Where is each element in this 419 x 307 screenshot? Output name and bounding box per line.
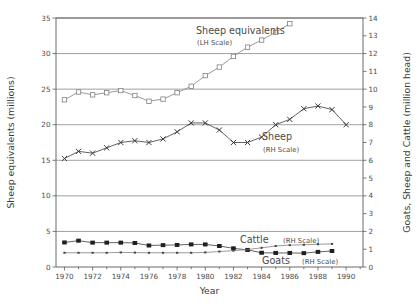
marker-cattle-0 <box>63 252 65 254</box>
marker-cattle-6 <box>148 252 150 254</box>
y-right-tick-label-14: 14 <box>369 14 379 23</box>
x-tick-label-1972: 1972 <box>83 272 101 281</box>
line-chart: 0510152025303501234567891011121314197019… <box>0 0 419 307</box>
y-left-tick-label-15: 15 <box>41 156 50 165</box>
marker-sheep-equivalents-16 <box>288 21 292 25</box>
marker-sheep-equivalents-8 <box>175 91 179 95</box>
y-left-tick-label-0: 0 <box>46 263 51 272</box>
marker-goats-10 <box>203 242 208 246</box>
marker-goats-4 <box>118 241 123 245</box>
marker-goats-19 <box>330 249 335 253</box>
marker-goats-3 <box>104 241 109 245</box>
x-tick-label-1984: 1984 <box>252 272 271 281</box>
marker-goats-8 <box>175 243 180 247</box>
y-right-tick-label-1: 1 <box>369 245 374 254</box>
y-left-tick-label-5: 5 <box>46 227 51 236</box>
y-axis-right-title: Goats, Sheep and Cattle (million head) <box>401 52 412 233</box>
x-tick-label-1970: 1970 <box>55 272 74 281</box>
y-right-tick-label-10: 10 <box>369 85 379 94</box>
marker-sheep-3 <box>104 145 109 150</box>
marker-cattle-15 <box>275 245 277 247</box>
marker-sheep-11 <box>217 127 222 132</box>
marker-cattle-19 <box>331 243 333 245</box>
goats-label: Goats <box>262 255 290 266</box>
y-right-tick-label-3: 3 <box>369 209 374 218</box>
marker-sheep-equivalents-7 <box>161 97 165 101</box>
cattle-sublabel: (RH Scale) <box>283 237 319 245</box>
cattle-label: Cattle <box>240 234 269 245</box>
marker-sheep-19 <box>329 107 334 112</box>
y-right-tick-label-9: 9 <box>369 103 374 112</box>
y-right-tick-label-7: 7 <box>369 138 374 147</box>
y-right-tick-label-0: 0 <box>369 263 374 272</box>
marker-cattle-12 <box>232 250 234 252</box>
marker-cattle-7 <box>162 252 164 254</box>
y-left-tick-label-35: 35 <box>41 14 50 23</box>
marker-goats-7 <box>161 243 166 247</box>
marker-sheep-8 <box>175 129 180 134</box>
marker-cattle-8 <box>176 252 178 254</box>
y-right-tick-label-2: 2 <box>369 227 374 236</box>
x-tick-label-1988: 1988 <box>309 272 328 281</box>
marker-goats-11 <box>217 244 222 248</box>
y-right-tick-label-6: 6 <box>369 156 374 165</box>
sheep-label: Sheep <box>262 131 292 142</box>
y-right-tick-label-13: 13 <box>369 31 378 40</box>
marker-sheep-equivalents-4 <box>119 88 123 92</box>
marker-cattle-2 <box>92 252 94 254</box>
sheep-sublabel: (RH Scale) <box>263 146 299 154</box>
sheep-equivalents-sublabel: (LH Scale) <box>197 39 232 47</box>
marker-cattle-9 <box>190 252 192 254</box>
series-line-sheep <box>64 106 346 158</box>
marker-sheep-equivalents-1 <box>76 90 80 94</box>
marker-cattle-1 <box>77 252 79 254</box>
y-left-tick-label-10: 10 <box>41 191 51 200</box>
marker-sheep-equivalents-12 <box>231 54 235 58</box>
marker-goats-17 <box>302 251 307 255</box>
x-tick-label-1978: 1978 <box>168 272 187 281</box>
y-right-tick-label-12: 12 <box>369 49 378 58</box>
marker-goats-6 <box>147 243 152 247</box>
x-tick-label-1986: 1986 <box>281 272 300 281</box>
marker-cattle-5 <box>134 252 136 254</box>
x-axis-title: Year <box>199 285 220 296</box>
marker-sheep-equivalents-5 <box>133 93 137 97</box>
x-tick-label-1990: 1990 <box>337 272 356 281</box>
x-tick-label-1976: 1976 <box>140 272 159 281</box>
marker-sheep-equivalents-10 <box>203 73 207 77</box>
y-right-tick-label-8: 8 <box>369 120 374 129</box>
marker-sheep-equivalents-6 <box>147 99 151 103</box>
marker-sheep-equivalents-11 <box>217 65 221 69</box>
sheep-equivalents-label: Sheep equivalents <box>196 25 285 36</box>
marker-goats-0 <box>62 240 67 244</box>
marker-sheep-equivalents-13 <box>245 45 249 49</box>
marker-goats-9 <box>189 242 194 246</box>
marker-sheep-equivalents-3 <box>104 91 108 95</box>
marker-goats-1 <box>76 239 81 243</box>
marker-sheep-16 <box>287 117 292 122</box>
marker-sheep-equivalents-14 <box>259 38 263 42</box>
marker-cattle-11 <box>218 251 220 253</box>
marker-goats-5 <box>133 241 138 245</box>
marker-sheep-equivalents-0 <box>62 98 66 102</box>
marker-goats-18 <box>316 250 321 254</box>
marker-sheep-equivalents-9 <box>189 84 193 88</box>
x-tick-label-1982: 1982 <box>224 272 242 281</box>
marker-cattle-14 <box>261 247 263 249</box>
goats-sublabel: (RH Scale) <box>302 258 338 266</box>
chart-container: 0510152025303501234567891011121314197019… <box>0 0 419 307</box>
x-tick-label-1974: 1974 <box>112 272 131 281</box>
y-left-tick-label-20: 20 <box>41 120 51 129</box>
y-right-tick-label-11: 11 <box>369 67 378 76</box>
marker-sheep-equivalents-2 <box>90 93 94 97</box>
marker-cattle-10 <box>204 251 206 253</box>
y-left-tick-label-25: 25 <box>41 85 50 94</box>
y-left-tick-label-30: 30 <box>41 49 51 58</box>
marker-cattle-13 <box>246 249 248 251</box>
marker-cattle-4 <box>120 251 122 253</box>
marker-cattle-3 <box>106 252 108 254</box>
marker-goats-2 <box>90 241 95 245</box>
marker-sheep-7 <box>160 136 165 141</box>
y-right-tick-label-5: 5 <box>369 174 374 183</box>
x-tick-label-1980: 1980 <box>196 272 215 281</box>
